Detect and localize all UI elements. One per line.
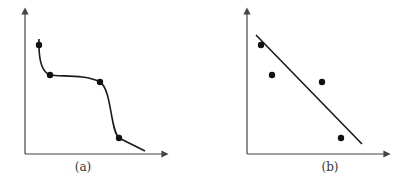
- panel-b: (b): [247, 11, 387, 174]
- panel-a: (a): [25, 11, 165, 174]
- data-point: [338, 135, 344, 141]
- data-point: [319, 79, 325, 85]
- panel-label-b: (b): [321, 160, 338, 174]
- data-point: [258, 42, 264, 48]
- fit-line: [256, 35, 362, 144]
- diagram-canvas: (a) (b): [0, 0, 409, 183]
- data-point: [116, 135, 122, 141]
- data-point: [47, 72, 53, 78]
- data-point: [36, 42, 42, 48]
- data-point: [97, 79, 103, 85]
- panel-label-a: (a): [75, 160, 92, 174]
- data-point: [269, 72, 275, 78]
- interpolating-curve: [39, 39, 145, 151]
